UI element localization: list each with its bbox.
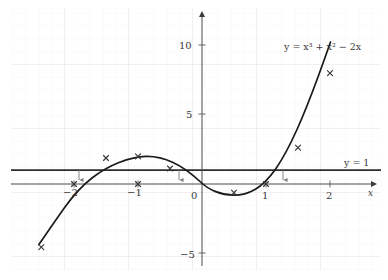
graph-svg: −2 −1 0 1 2 −5 5 10 x y = x³ + x² − 2x y… (0, 0, 388, 280)
x-tick-label-two: 2 (326, 190, 332, 201)
graph-figure: −2 −1 0 1 2 −5 5 10 x y = x³ + x² − 2x y… (0, 0, 388, 280)
y-tick-label-neg5: −5 (180, 249, 195, 260)
y-tick-label-ten: 10 (179, 40, 192, 51)
y-tick-label-five: 5 (186, 109, 192, 120)
x-axis-label: x (368, 188, 373, 198)
curve-equation-label: y = x³ + x² − 2x (283, 41, 362, 52)
x-tick-label-neg1: −1 (127, 187, 142, 198)
x-tick-label-zero: 0 (191, 190, 197, 201)
horizontal-line-label: y = 1 (343, 157, 369, 168)
x-tick-label-one: 1 (262, 190, 268, 201)
x-tick-label-neg2: −2 (63, 187, 78, 198)
